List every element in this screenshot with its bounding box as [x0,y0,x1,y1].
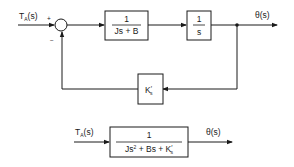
bottom-input-label-ta: TA(s) [75,127,94,138]
input-label-ta: TA(s) [19,11,38,22]
closed-loop-denominator: Js2 + Bs + K′s [125,144,173,155]
block2-numerator: 1 [197,14,202,24]
feedback-path-left [62,32,138,89]
block1-numerator: 1 [124,14,129,24]
output-label-theta: θ(s) [255,10,270,20]
plus-sign: + [47,15,51,22]
block2-denominator: s [197,27,201,37]
equivalent-transfer-function: TA(s) 1 Js2 + Bs + K′s θ(s) [74,127,232,157]
closed-loop-diagram: TA(s) + − 1 Js + B 1 s θ(s) K′s [18,10,277,104]
block-diagram: TA(s) + − 1 Js + B 1 s θ(s) K′s TA(s) [0,0,294,167]
block1-denominator: Js + B [115,26,139,36]
bottom-output-label-theta: θ(s) [206,127,221,137]
closed-loop-numerator: 1 [147,130,152,140]
feedback-gain-label: K′s [145,85,153,96]
summing-junction [55,19,67,31]
minus-sign: − [50,37,54,44]
